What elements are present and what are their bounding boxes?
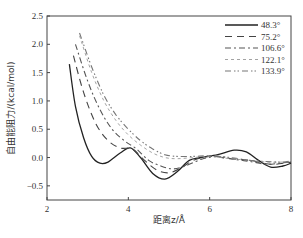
series-lines: [69, 33, 291, 179]
line-chart: −0.50.00.51.01.52.02.5 2468 48.3°75.2°10…: [0, 0, 303, 238]
y-tick-label: 0.0: [32, 153, 44, 163]
y-tick-label: 1.5: [32, 68, 44, 78]
legend-label: 75.2°: [261, 32, 281, 42]
legend-label: 106.6°: [261, 43, 285, 53]
y-tick-label: 0.5: [32, 124, 44, 134]
legend-label: 133.9°: [261, 66, 285, 76]
x-tick-label: 4: [126, 204, 131, 214]
legend-label: 48.3°: [261, 20, 281, 30]
x-tick-label: 2: [45, 204, 50, 214]
x-tick-label: 6: [207, 204, 212, 214]
y-tick-label: 2.5: [32, 11, 44, 21]
y-tick-label: −0.5: [27, 181, 44, 191]
y-tick-label: 1.0: [32, 96, 44, 106]
y-tick-label: 2.0: [32, 39, 44, 49]
series-line-2: [75, 44, 291, 169]
legend: 48.3°75.2°106.6°122.1°133.9°: [225, 20, 285, 76]
y-axis-title: 自由能阻力/(kcal/mol): [5, 61, 16, 154]
plot-frame: [47, 16, 291, 200]
legend-label: 122.1°: [261, 55, 285, 65]
series-line-1: [73, 56, 291, 173]
x-axis-title: 距离z/Å: [153, 214, 186, 225]
x-tick-label: 8: [289, 204, 294, 214]
